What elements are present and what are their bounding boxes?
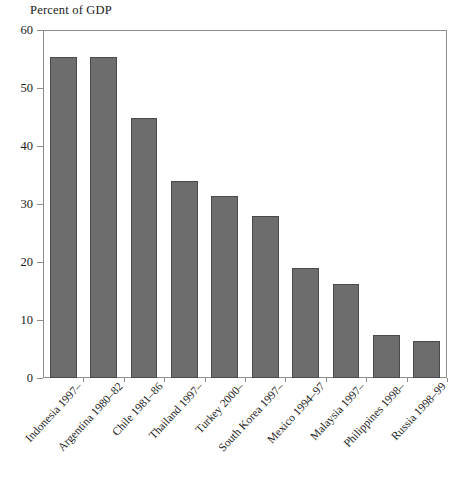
bars-container [43, 30, 447, 378]
bar [50, 57, 77, 378]
x-axis-labels: Indonesia 1997–Argentina 1980–82Chile 19… [43, 380, 463, 482]
y-axis-tick-label: 30 [21, 196, 34, 212]
y-axis-tick-label: 0 [27, 370, 33, 386]
y-axis-tick-label: 40 [21, 138, 34, 154]
y-axis-tick-label: 60 [21, 22, 34, 38]
bar [413, 341, 440, 378]
y-axis-tick-label: 10 [21, 312, 34, 328]
y-axis-tick-label: 20 [21, 254, 34, 270]
bar [90, 57, 117, 378]
bar [333, 284, 360, 378]
y-axis: 0102030405060 [0, 0, 43, 482]
y-axis-tick-label: 50 [21, 80, 34, 96]
bar [211, 196, 238, 378]
bar [292, 268, 319, 378]
bar [171, 181, 198, 378]
bar [131, 118, 158, 378]
bar [373, 335, 400, 379]
bar [252, 216, 279, 378]
